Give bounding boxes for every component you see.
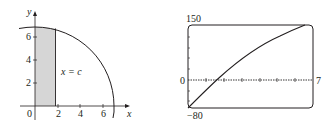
viewing-window: [188, 25, 313, 108]
y-axis-arrow-icon: [33, 11, 37, 16]
y-axis-label: y: [26, 6, 32, 17]
y-min-label: −80: [187, 110, 203, 121]
y-tick-label-4: 4: [26, 54, 31, 65]
y-tick-label-6: 6: [26, 31, 31, 42]
figure: y x 0 2 4 6 2 4 6 x = c: [0, 0, 333, 133]
shaded-region: [35, 27, 56, 106]
function-curve: [188, 25, 305, 108]
x-tick-label-2: 2: [56, 108, 61, 119]
y-tick-label-2: 2: [26, 77, 31, 88]
x-axis-label: x: [126, 108, 132, 119]
zero-label: 0: [180, 75, 185, 86]
x-equals-c-annotation: x = c: [60, 66, 82, 77]
x-max-label: 7: [316, 75, 321, 86]
function-graph: 150 0 7 −80: [180, 13, 321, 121]
x-tick-label-4: 4: [78, 108, 83, 119]
quarter-circle-graph: y x 0 2 4 6 2 4 6 x = c: [19, 6, 132, 120]
x-tick-label-6: 6: [101, 108, 106, 119]
y-max-label: 150: [186, 13, 201, 24]
origin-label: 0: [27, 108, 32, 119]
